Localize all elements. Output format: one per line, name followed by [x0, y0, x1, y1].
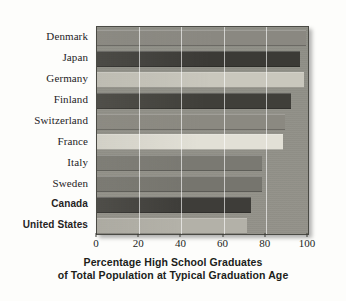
category-label-finland: Finland [0, 89, 92, 110]
bar-france [97, 134, 283, 150]
bar-row [97, 69, 308, 90]
category-label-united-states: United States [0, 214, 92, 235]
bar-chart-figure: DenmarkJapanGermanyFinlandSwitzerlandFra… [0, 0, 346, 301]
gridline-80 [266, 27, 267, 234]
bar-finland [97, 93, 291, 109]
bar-row [97, 27, 308, 48]
caption-line-1: Percentage High School Graduates [0, 256, 346, 269]
bar-denmark [97, 30, 306, 46]
category-label-france: France [0, 130, 92, 151]
gridline-40 [181, 27, 182, 234]
bar-germany [97, 72, 304, 88]
bar-row [97, 152, 308, 173]
gridline-20 [139, 27, 140, 234]
category-label-switzerland: Switzerland [0, 110, 92, 131]
bar-switzerland [97, 114, 285, 130]
bar-canada [97, 197, 251, 213]
bar-row [97, 173, 308, 194]
bar-japan [97, 51, 300, 67]
bar-row [97, 215, 308, 235]
tick-label-0: 0 [93, 237, 99, 249]
category-label-germany: Germany [0, 68, 92, 89]
category-label-canada: Canada [0, 193, 92, 214]
bar-italy [97, 155, 262, 171]
category-label-sweden: Sweden [0, 172, 92, 193]
tick-label-40: 40 [175, 237, 186, 249]
category-label-italy: Italy [0, 151, 92, 172]
tick-label-100: 100 [299, 237, 316, 249]
tick-label-20: 20 [133, 237, 144, 249]
bar-row [97, 194, 308, 215]
chart-caption: Percentage High School Graduates of Tota… [0, 256, 346, 282]
plot-area [96, 26, 309, 235]
bar-sweden [97, 176, 262, 192]
bar-row [97, 111, 308, 132]
bar-row [97, 48, 308, 69]
category-axis-labels: DenmarkJapanGermanyFinlandSwitzerlandFra… [0, 26, 92, 235]
caption-line-2: of Total Population at Typical Graduatio… [0, 269, 346, 282]
bar-rows [97, 27, 308, 234]
category-label-denmark: Denmark [0, 26, 92, 47]
value-axis: 020406080100 [96, 237, 309, 253]
bar-row [97, 131, 308, 152]
tick-label-80: 80 [259, 237, 270, 249]
bar-row [97, 90, 308, 111]
category-label-japan: Japan [0, 47, 92, 68]
tick-label-60: 60 [217, 237, 228, 249]
gridline-100 [308, 27, 309, 234]
gridline-60 [224, 27, 225, 234]
